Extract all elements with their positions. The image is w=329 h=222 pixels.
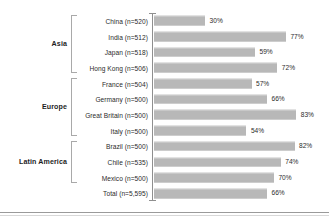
bar-track: 66% [154,189,285,198]
bar-row: Total (n=5,595)66% [0,186,329,202]
category-label: Total (n=5,595) [103,190,148,197]
bar-value-label: 66% [272,190,285,197]
group-label: Asia [52,40,67,48]
group-label: Latin America [19,158,67,166]
figure-bottom-rule [0,212,329,213]
group-label-wrap: Europe [0,78,329,136]
group-label-wrap: Latin America [0,141,329,183]
group-label: Europe [42,103,67,111]
bar-chart: China (n=520)30%India (n=512)77%Japan (n… [0,0,329,222]
plot-area: China (n=520)30%India (n=512)77%Japan (n… [0,0,329,206]
group-label-wrap: Asia [0,15,329,73]
figure-bottom-rule-secondary [0,215,329,216]
bar [154,189,268,199]
